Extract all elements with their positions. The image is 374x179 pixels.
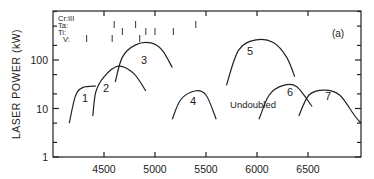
x-tick-label: 4500 [92, 163, 116, 175]
y-axis-ticks: 110100 [30, 12, 361, 164]
x-tick-label: 5000 [143, 163, 167, 175]
x-tick-label: 5500 [194, 163, 218, 175]
x-tick-label: 6000 [245, 163, 269, 175]
x-axis-ticks: 45005000550060006500 [92, 11, 320, 175]
curve-2 [93, 66, 146, 116]
curve-label-7: 7 [325, 90, 331, 102]
y-axis-label: LASER POWER (kW) [10, 29, 22, 139]
data-curves: 1234567 [69, 39, 361, 123]
curve-label-6: 6 [287, 86, 293, 98]
y-tick-label: 100 [30, 54, 48, 66]
x-tick-label: 6500 [296, 163, 320, 175]
laser-power-chart: 45005000550060006500 110100 1234567 Cr:I… [0, 0, 374, 179]
curve-label-5: 5 [247, 45, 253, 57]
y-tick-label: 10 [36, 103, 48, 115]
curve-label-3: 3 [141, 54, 147, 66]
curve-label-4: 4 [190, 95, 196, 107]
panel-label: (a) [332, 28, 344, 39]
curve-label-1: 1 [82, 92, 88, 104]
undoubled-annotation: Undoubled [230, 99, 276, 110]
legend-entry: V: [63, 35, 70, 44]
y-tick-label: 1 [42, 151, 48, 163]
legend: Cr:IIITa:Ti:V: [58, 14, 196, 44]
curve-label-2: 2 [103, 82, 109, 94]
curve-5 [226, 39, 294, 85]
